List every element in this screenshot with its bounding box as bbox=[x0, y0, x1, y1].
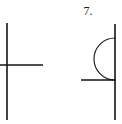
right-figure bbox=[81, 24, 116, 120]
figure-number-label: 7. bbox=[80, 4, 96, 18]
semicircle-arc bbox=[94, 38, 115, 80]
diagram-canvas: 7. bbox=[0, 0, 122, 124]
left-figure bbox=[0, 23, 43, 120]
diagram-drawing bbox=[0, 0, 122, 124]
